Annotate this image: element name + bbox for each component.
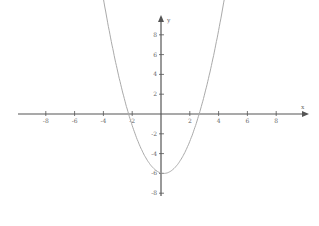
x-tick-label: -4 [100,117,106,124]
x-tick-label: 4 [217,117,221,124]
y-tick-label: 8 [153,31,157,38]
x-axis-arrow-icon [302,111,309,117]
y-tick-label: 6 [153,51,157,58]
parabola-curve [103,0,224,173]
y-tick-label: 2 [153,90,157,97]
x-tick-label: 8 [274,117,278,124]
y-tick-label: -4 [151,150,157,157]
y-tick-label: 4 [153,70,157,77]
x-axis-label: x [301,103,305,110]
x-tick-label: 6 [245,117,249,124]
y-tick-label: -8 [151,189,157,196]
x-tick-label: -8 [43,117,49,124]
axes: x y [18,15,309,196]
y-tick-label: -2 [151,130,157,137]
y-axis-arrow-icon [158,15,164,22]
y-axis-label: y [166,16,171,24]
parabola-chart: x y -8-6-4-224688642-2-4-6-8 [0,0,319,226]
x-tick-label: -6 [72,117,78,124]
x-tick-label: 2 [188,117,192,124]
